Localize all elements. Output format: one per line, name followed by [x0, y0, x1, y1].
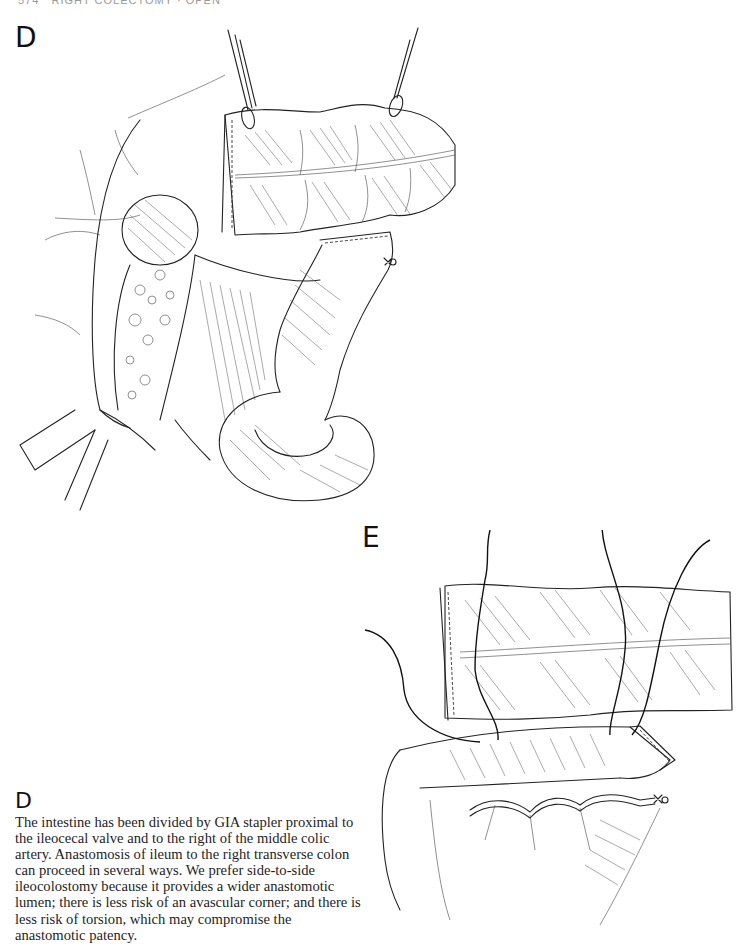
retroperitoneal-fat	[92, 120, 195, 428]
retractor	[20, 410, 155, 510]
babcock-clamp-right	[387, 28, 418, 118]
caption-body: The intestine has been divided by GIA st…	[15, 814, 365, 943]
ileum-segment	[382, 726, 675, 910]
mesentery	[175, 255, 320, 460]
babcock-clamp-left	[228, 30, 257, 130]
cecal-stump	[122, 195, 198, 265]
figure-d-illustration	[0, 0, 520, 530]
figure-e-illustration	[340, 530, 756, 946]
caption-heading: D	[15, 790, 365, 812]
figure-caption: D The intestine has been divided by GIA …	[15, 790, 365, 943]
mesenteric-vessels	[430, 795, 668, 925]
transverse-colon	[222, 105, 455, 235]
